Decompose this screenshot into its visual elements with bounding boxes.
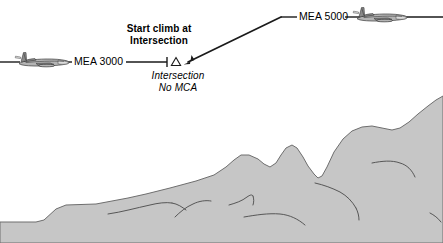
callout-line-1: Start climb at: [113, 23, 205, 35]
intersection-line-2: No MCA: [133, 82, 223, 94]
terrain-silhouette: [0, 96, 443, 243]
enroute-profile-diagram: MEA 3000 MEA 5000 Start climb at Interse…: [0, 0, 443, 243]
start-climb-callout: Start climb at Intersection: [113, 23, 205, 47]
airplane-icon-high: [353, 8, 407, 22]
intersection-label: Intersection No MCA: [133, 70, 223, 94]
fix-triangle: [171, 58, 180, 66]
mea-high-label: MEA 5000: [299, 10, 348, 22]
diagram-canvas: [0, 0, 443, 243]
arrow-head-icon: [184, 55, 195, 65]
intersection-line-1: Intersection: [133, 70, 223, 82]
airplane-icon-low: [15, 53, 69, 67]
callout-line-2: Intersection: [113, 35, 205, 47]
terrain-profile: [0, 96, 443, 243]
intersection-triangle-icon: [167, 57, 181, 67]
mea-low-label: MEA 3000: [74, 55, 123, 67]
